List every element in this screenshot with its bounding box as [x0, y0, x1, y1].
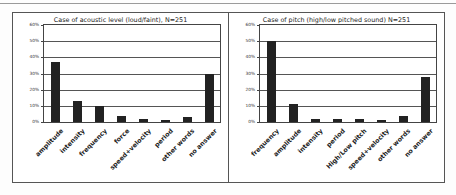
y-tick-mark: [41, 122, 44, 123]
y-tick-label: 0%: [15, 119, 39, 124]
chart-title: Case of pitch (high/low pitched sound) N…: [229, 16, 444, 24]
y-tick-label: 20%: [231, 87, 255, 92]
gridline: [260, 74, 436, 75]
bar-frequency: [95, 106, 104, 122]
y-tick-mark: [41, 25, 44, 26]
bar-speed-velocity: [139, 119, 148, 122]
y-tick-mark: [41, 74, 44, 75]
gridline: [260, 90, 436, 91]
bar-no-answer: [205, 74, 214, 123]
y-tick-mark: [41, 90, 44, 91]
plot-area: 0%10%20%30%40%50%60%: [259, 24, 437, 123]
y-tick-label: 50%: [231, 38, 255, 43]
y-tick-mark: [257, 106, 260, 107]
gridline: [44, 106, 220, 107]
y-tick-label: 30%: [15, 71, 39, 76]
y-tick-mark: [257, 41, 260, 42]
y-tick-mark: [257, 25, 260, 26]
y-tick-mark: [41, 41, 44, 42]
chart-title: Case of acoustic level (loud/faint), N=2…: [13, 16, 228, 24]
y-tick-mark: [257, 57, 260, 58]
y-tick-label: 10%: [15, 103, 39, 108]
top-rule: [0, 3, 456, 4]
bar-other-words: [183, 117, 192, 122]
x-tick-label: speed+velocity: [108, 127, 153, 172]
plot-area: 0%10%20%30%40%50%60%: [43, 24, 221, 123]
bar-amplitude: [289, 104, 298, 122]
y-tick-mark: [257, 122, 260, 123]
y-tick-mark: [257, 74, 260, 75]
bar-speed-velocity: [377, 120, 386, 122]
x-tick-label: amplitude: [34, 127, 65, 158]
gridline: [260, 57, 436, 58]
gridline: [260, 41, 436, 42]
bar-force: [117, 116, 126, 122]
chart-pitch: Case of pitch (high/low pitched sound) N…: [228, 12, 445, 183]
bar-other-words: [399, 116, 408, 122]
bar-period: [333, 119, 342, 122]
bar-intensity: [311, 119, 320, 122]
bar-high-low-pitch: [355, 119, 364, 122]
y-tick-label: 60%: [15, 22, 39, 27]
bar-intensity: [73, 101, 82, 122]
gridline: [44, 57, 220, 58]
y-tick-label: 50%: [15, 38, 39, 43]
y-tick-mark: [257, 90, 260, 91]
bar-frequency: [267, 41, 276, 122]
y-tick-mark: [41, 57, 44, 58]
y-tick-mark: [41, 106, 44, 107]
bar-period: [161, 120, 170, 122]
y-tick-label: 40%: [231, 54, 255, 59]
gridline: [44, 41, 220, 42]
y-tick-label: 10%: [231, 103, 255, 108]
y-tick-label: 0%: [231, 119, 255, 124]
y-tick-label: 40%: [15, 54, 39, 59]
gridline: [44, 90, 220, 91]
gridline: [260, 106, 436, 107]
gridline: [44, 74, 220, 75]
y-tick-label: 20%: [15, 87, 39, 92]
y-tick-label: 30%: [231, 71, 255, 76]
bar-amplitude: [51, 62, 60, 122]
bar-no-answer: [421, 77, 430, 122]
x-tick-label: force: [112, 127, 131, 146]
y-tick-label: 60%: [231, 22, 255, 27]
chart-acoustic-level: Case of acoustic level (loud/faint), N=2…: [12, 12, 229, 183]
